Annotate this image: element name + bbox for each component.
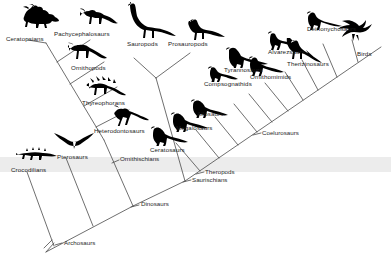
node-label-theropods: Theropods — [205, 168, 235, 175]
tip-label-ceratosaurs: Ceratosaurs — [150, 146, 185, 153]
tip-label-therizinosaurs: Therizinosaurs — [287, 60, 329, 67]
node-label-archosaurs: Archosaurs — [64, 239, 95, 246]
node-label-ornithischians: Ornithischians — [120, 155, 159, 162]
tip-label-alvarezsaurs: Alvarezsaurs — [268, 48, 305, 55]
tip-label-ornithomimids: Ornithomimids — [250, 73, 291, 80]
tip-label-tyrannosaurs: Tyrannosaurs — [224, 66, 263, 73]
cladogram-figure: Ceratopsians Pachycephalosaurs Ornithopo… — [0, 0, 391, 262]
tip-label-crocodilians: Crocodilians — [11, 166, 46, 173]
tip-label-allosaurs: Allosaurs — [197, 110, 223, 117]
node-label-dinosaurs: Dinosaurs — [141, 200, 169, 207]
tip-label-sauropods: Sauropods — [127, 40, 158, 47]
tip-label-compsognathids: Compsognathids — [204, 80, 252, 87]
node-label-coelurosaurs: Coelurosaurs — [262, 129, 299, 136]
tip-label-ceratopsians: Ceratopsians — [6, 35, 44, 42]
tip-label-heterodontosaurs: Heterodontosaurs — [94, 127, 145, 134]
tip-label-deinonychosaurs: Deinonychosaurs — [307, 25, 356, 32]
tip-label-ornithopods: Ornithopods — [71, 64, 106, 71]
tip-label-thyreophorans: Thyreophorans — [82, 99, 125, 106]
tip-label-birds: Birds — [357, 50, 372, 57]
tip-label-pterosaurs: Pterosaurs — [57, 153, 88, 160]
tip-label-pachycephalosaurs: Pachycephalosaurs — [54, 30, 110, 37]
tip-label-prosauropods: Prosauropods — [168, 40, 208, 47]
node-label-saurischians: Saurischians — [192, 176, 227, 183]
tip-label-megalosaurs: Megalosaurs — [176, 124, 213, 131]
